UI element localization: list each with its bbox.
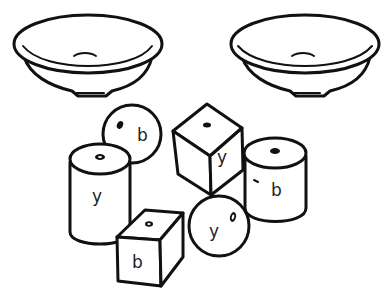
right-bowl: [231, 15, 379, 96]
bead-cube-y: y: [173, 104, 243, 195]
illustration: b y y b y b: [0, 0, 391, 298]
bead-sphere-y: y: [189, 196, 249, 256]
bead-label: b: [271, 180, 282, 200]
bead-label: y: [217, 147, 227, 167]
bead-cylinder-b: b: [244, 138, 306, 222]
bead-label: y: [92, 186, 102, 206]
bead-label: b: [137, 125, 148, 145]
bead-label: b: [132, 252, 143, 272]
bead-cylinder-y: y: [70, 144, 130, 244]
left-bowl: [14, 15, 162, 96]
bead-label: y: [209, 221, 219, 241]
